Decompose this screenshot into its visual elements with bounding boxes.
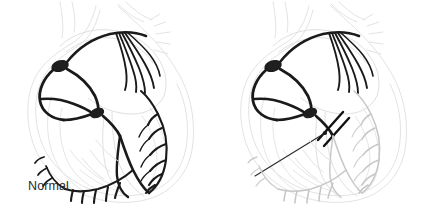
internodal-pathway-inferior — [64, 114, 92, 120]
internodal-pathway-inferior — [277, 114, 305, 120]
bundle-of-his — [103, 116, 120, 136]
internodal-pathway-posterior — [280, 69, 311, 112]
block-marker — [318, 112, 349, 146]
av-node — [302, 106, 318, 119]
internodal-pathway-posterior — [67, 69, 98, 112]
atrial-conduction-fibers — [329, 33, 367, 93]
bundle-branch-left — [333, 136, 362, 193]
purkinje-fibers-right-secondary — [352, 125, 363, 181]
atrial-conduction-fibers — [116, 33, 154, 93]
purkinje-fibers-right-secondary — [139, 125, 150, 181]
bundle-branch-left — [120, 136, 149, 193]
panel-normal-caption: Normal — [28, 180, 69, 193]
great-vessels-outline — [60, 2, 170, 54]
panel-normal: Normal — [0, 0, 214, 218]
panel-block: Block — [213, 0, 427, 218]
great-vessels-outline — [273, 2, 383, 54]
cardiac-conduction-figure: Normal — [0, 0, 427, 218]
heart-outline — [28, 6, 194, 202]
purkinje-fibers-left-wall — [248, 157, 278, 189]
block-heart-illustration — [213, 0, 427, 218]
trabeculae-outline — [82, 140, 118, 179]
heart-outline — [241, 6, 407, 202]
av-node — [89, 106, 105, 119]
